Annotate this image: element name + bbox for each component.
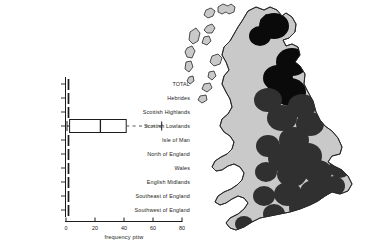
shetland-isles <box>218 4 235 14</box>
blob-sutherland <box>249 26 271 46</box>
lewis-harris <box>189 28 200 44</box>
uk-map-panel <box>182 0 366 246</box>
inner-hebrides-small <box>208 71 216 80</box>
x-axis-ticks <box>66 218 182 222</box>
blob-north-wales <box>255 162 277 182</box>
islay-jura <box>198 95 207 103</box>
box-scottish-lowlands-group <box>67 120 162 133</box>
xtick-20: 20 <box>92 225 98 231</box>
figure-root: TOTAL Hebrides Scottish Highlands Scotti… <box>0 0 366 246</box>
barra <box>187 76 194 84</box>
south-uist <box>185 61 193 72</box>
orkney-south <box>202 36 211 45</box>
uk-map-svg <box>182 0 366 246</box>
xtick-60: 60 <box>150 225 156 231</box>
isle-of-skye <box>210 54 222 66</box>
x-axis-title: frequency pttw <box>104 234 143 241</box>
xtick-0: 0 <box>65 225 68 231</box>
blob-norfolk <box>329 158 351 178</box>
y-axis-ticks <box>61 84 65 210</box>
orkney-isles <box>204 24 215 33</box>
xtick-40: 40 <box>121 225 127 231</box>
north-uist <box>185 46 195 58</box>
isle-of-mull <box>202 83 212 92</box>
box-rect-scottish-lowlands <box>70 120 127 133</box>
boxplot-panel: TOTAL Hebrides Scottish Highlands Scotti… <box>0 0 190 246</box>
blob-south-wales <box>253 186 275 206</box>
shetland-south <box>204 8 215 18</box>
boxplot-canvas <box>0 0 190 246</box>
